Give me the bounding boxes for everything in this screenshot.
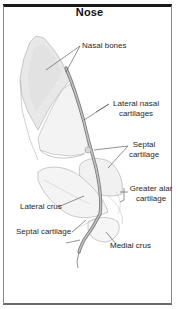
label-lateral-nasal-line2: cartilages <box>108 109 164 119</box>
label-greater-alar-line1: Greater alar <box>128 184 174 194</box>
label-septal-upper-line2: cartilage <box>124 150 164 160</box>
label-lateral-crus: Lateral crus <box>20 202 62 212</box>
label-lateral-nasal-line1: Lateral nasal <box>108 99 164 109</box>
label-septal-upper-line1: Septal <box>124 140 164 150</box>
label-medial-crus: Medial crus <box>110 241 151 251</box>
label-septal-cartilage-lower: Septal cartilage <box>16 227 71 237</box>
label-lateral-nasal-cartilages: Lateral nasal cartilages <box>108 99 164 118</box>
label-nasal-bones: Nasal bones <box>82 41 126 51</box>
label-septal-cartilage-upper: Septal cartilage <box>124 140 164 159</box>
label-greater-alar-line2: cartilage <box>128 194 174 204</box>
label-greater-alar-cartilage: Greater alar cartilage <box>128 184 174 203</box>
